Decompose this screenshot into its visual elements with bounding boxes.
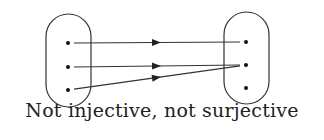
mapping-arrow (74, 66, 240, 89)
mapping-arrow (74, 63, 240, 70)
arrowhead-icon (152, 39, 161, 46)
mapping-arrow (74, 39, 240, 46)
codomain-element-dot (244, 63, 248, 67)
codomain-element-dot (244, 40, 248, 44)
codomain-element-dot (244, 86, 248, 90)
domain-element-dot (66, 41, 70, 45)
domain-element-dot (66, 88, 70, 92)
domain-set-oval (46, 14, 91, 107)
domain-element-dot (66, 65, 70, 69)
codomain-set-oval (224, 12, 269, 104)
arrowhead-icon (152, 63, 161, 70)
arrowhead-icon (152, 75, 161, 82)
diagram-caption: Not injective, not surjective (0, 99, 324, 121)
